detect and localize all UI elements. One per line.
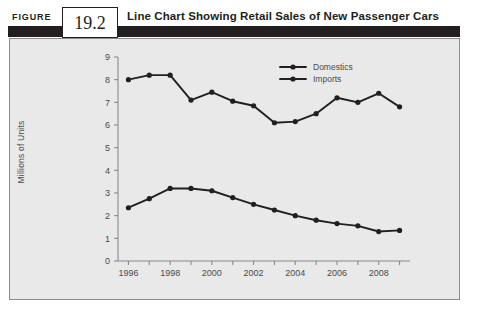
legend-swatch-marker [290, 64, 295, 69]
data-point [334, 221, 339, 226]
figure-header: FIGURE 19.2 Line Chart Showing Retail Sa… [0, 4, 487, 38]
data-point [147, 73, 152, 78]
data-point [376, 91, 381, 96]
y-tick-label: 4 [105, 166, 110, 176]
y-tick-label: 0 [105, 256, 110, 266]
y-tick-label: 6 [105, 120, 110, 130]
line-chart: 0123456789 1996199820002002200420062008 … [10, 39, 461, 301]
x-tick-label: 2002 [244, 268, 264, 278]
data-point [397, 228, 402, 233]
data-point [168, 73, 173, 78]
y-tick-label: 9 [105, 52, 110, 62]
data-point [397, 104, 402, 109]
data-point [188, 186, 193, 191]
series-domestics [126, 73, 402, 126]
data-point [230, 195, 235, 200]
data-point [293, 119, 298, 124]
legend-item-imports[interactable]: Imports [280, 74, 341, 84]
legend-label: Imports [313, 74, 341, 84]
chart-panel: Millions of Units 0123456789 19961998200… [9, 38, 460, 300]
y-tick-label: 7 [105, 98, 110, 108]
data-point [251, 103, 256, 108]
data-point [209, 90, 214, 95]
series-group [126, 73, 402, 235]
data-point [251, 202, 256, 207]
y-tick-group: 0123456789 [105, 52, 118, 266]
data-point [126, 205, 131, 210]
y-tick-label: 2 [105, 211, 110, 221]
data-point [147, 196, 152, 201]
chart-legend: DomesticsImports [280, 62, 353, 84]
data-point [376, 229, 381, 234]
x-tick-label: 2000 [202, 268, 222, 278]
figure-number: 19.2 [74, 14, 106, 32]
y-axis: 0123456789 [105, 52, 118, 266]
data-point [209, 188, 214, 193]
y-tick-label: 5 [105, 143, 110, 153]
x-tick-label: 1996 [118, 268, 138, 278]
data-point [188, 97, 193, 102]
data-point [293, 213, 298, 218]
data-point [355, 223, 360, 228]
figure-number-box: 19.2 [62, 7, 118, 38]
legend-label: Domestics [313, 62, 353, 72]
x-tick-label: 1998 [160, 268, 180, 278]
series-line [128, 75, 399, 123]
series-imports [126, 186, 402, 234]
x-tick-label: 2004 [285, 268, 305, 278]
data-point [168, 186, 173, 191]
y-tick-label: 8 [105, 75, 110, 85]
data-point [230, 99, 235, 104]
figure-label: FIGURE [12, 12, 51, 22]
plot-area: Millions of Units 0123456789 19961998200… [10, 39, 461, 301]
figure-title: Line Chart Showing Retail Sales of New P… [127, 10, 439, 22]
y-tick-label: 3 [105, 188, 110, 198]
data-point [355, 100, 360, 105]
data-point [334, 95, 339, 100]
x-axis: 1996199820002002200420062008 [118, 261, 410, 278]
data-point [272, 207, 277, 212]
data-point [272, 120, 277, 125]
data-point [314, 111, 319, 116]
x-tick-label: 2008 [369, 268, 389, 278]
legend-swatch-marker [290, 76, 295, 81]
figure-screenshot: FIGURE 19.2 Line Chart Showing Retail Sa… [0, 0, 487, 318]
legend-item-domestics[interactable]: Domestics [280, 62, 353, 72]
data-point [314, 218, 319, 223]
y-tick-label: 1 [105, 234, 110, 244]
x-tick-label: 2006 [327, 268, 347, 278]
data-point [126, 77, 131, 82]
x-tick-group: 1996199820002002200420062008 [118, 261, 399, 278]
